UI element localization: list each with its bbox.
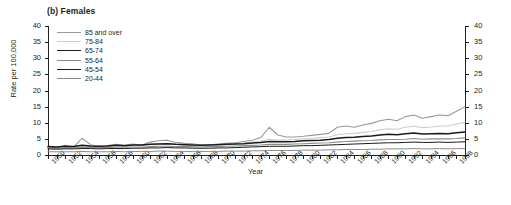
- y-tick-r-25: [466, 74, 470, 75]
- legend-label-85-and-over: 85 and over: [85, 29, 122, 36]
- legend-item-75-84[interactable]: 75-84: [57, 37, 122, 46]
- y-tick-r-30: [466, 58, 470, 59]
- x-tick-1978: [286, 155, 287, 159]
- x-tick-1952: [65, 155, 66, 159]
- legend-swatch-45-54: [57, 69, 81, 70]
- y-tick-label-r-25: 25: [474, 70, 482, 78]
- legend-swatch-20-44: [57, 78, 81, 79]
- y-tick-label-r-30: 30: [474, 54, 482, 62]
- legend-item-55-64[interactable]: 55-64: [57, 56, 122, 65]
- y-tick-label-r-0: 0: [474, 151, 478, 159]
- chart-figure: (b) Females Rate per 100,000 00551010151…: [0, 0, 511, 205]
- y-tick-label-r-35: 35: [474, 38, 482, 46]
- series-line-75-84: [48, 122, 465, 148]
- x-axis-label: Year: [0, 167, 511, 176]
- y-tick-r-5: [466, 139, 470, 140]
- y-tick-label-r-10: 10: [474, 119, 482, 127]
- y-tick-label-l-5: 5: [37, 135, 41, 143]
- y-tick-r-35: [466, 42, 470, 43]
- x-tick-1962: [150, 155, 151, 159]
- y-tick-label-r-40: 40: [474, 22, 482, 30]
- legend-label-75-84: 75-84: [85, 38, 103, 45]
- x-tick-1956: [99, 155, 100, 159]
- x-tick-1970: [218, 155, 219, 159]
- y-tick-r-15: [466, 107, 470, 108]
- y-tick-label-l-10: 10: [33, 119, 41, 127]
- y-tick-label-l-30: 30: [33, 54, 41, 62]
- x-tick-1990: [388, 155, 389, 159]
- x-tick-1986: [354, 155, 355, 159]
- legend-swatch-55-64: [57, 60, 81, 61]
- legend-swatch-75-84: [57, 41, 81, 42]
- x-tick-1972: [235, 155, 236, 159]
- x-tick-1976: [269, 155, 270, 159]
- y-tick-r-10: [466, 123, 470, 124]
- legend-swatch-85-and-over: [57, 32, 81, 33]
- x-tick-1964: [167, 155, 168, 159]
- x-tick-1982: [320, 155, 321, 159]
- x-tick-1996: [439, 155, 440, 159]
- x-tick-1958: [116, 155, 117, 159]
- y-tick-label-r-15: 15: [474, 103, 482, 111]
- legend-label-20-44: 20-44: [85, 75, 103, 82]
- legend-item-45-54[interactable]: 45-54: [57, 65, 122, 74]
- x-tick-1968: [201, 155, 202, 159]
- x-tick-1984: [337, 155, 338, 159]
- y-tick-label-r-5: 5: [474, 135, 478, 143]
- chart-legend: 85 and over75-8465-7455-6445-5420-44: [57, 28, 122, 83]
- legend-swatch-65-74: [57, 50, 81, 51]
- legend-item-85-and-over[interactable]: 85 and over: [57, 28, 122, 37]
- x-tick-1992: [405, 155, 406, 159]
- chart-title: (b) Females: [47, 6, 95, 16]
- legend-label-55-64: 55-64: [85, 57, 103, 64]
- x-tick-1954: [82, 155, 83, 159]
- x-tick-1960: [133, 155, 134, 159]
- y-tick-label-l-35: 35: [33, 38, 41, 46]
- x-tick-1998: [456, 155, 457, 159]
- x-tick-1950: [48, 155, 49, 159]
- y-tick-label-r-20: 20: [474, 87, 482, 95]
- y-tick-label-l-15: 15: [33, 103, 41, 111]
- legend-item-65-74[interactable]: 65-74: [57, 46, 122, 55]
- x-tick-1988: [371, 155, 372, 159]
- legend-item-20-44[interactable]: 20-44: [57, 74, 122, 83]
- y-tick-r-40: [466, 26, 470, 27]
- y-axis-label: Rate per 100,000: [9, 34, 18, 104]
- legend-label-65-74: 65-74: [85, 47, 103, 54]
- x-tick-1966: [184, 155, 185, 159]
- y-tick-label-l-0: 0: [37, 151, 41, 159]
- x-tick-1980: [303, 155, 304, 159]
- x-tick-1974: [252, 155, 253, 159]
- y-tick-label-l-40: 40: [33, 22, 41, 30]
- y-tick-label-l-20: 20: [33, 87, 41, 95]
- y-tick-r-20: [466, 91, 470, 92]
- y-tick-label-l-25: 25: [33, 70, 41, 78]
- legend-label-45-54: 45-54: [85, 66, 103, 73]
- x-tick-1994: [422, 155, 423, 159]
